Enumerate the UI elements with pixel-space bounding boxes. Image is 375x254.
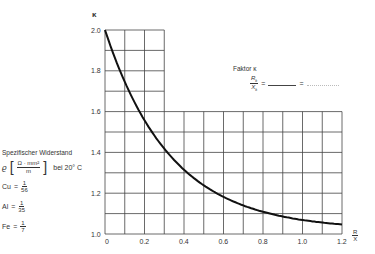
svg-text:1.2: 1.2 [91, 190, 101, 197]
x-axis-label: RX [352, 229, 358, 243]
svg-text:1.0: 1.0 [298, 238, 308, 245]
grid-lines [105, 30, 342, 234]
svg-text:1.2: 1.2 [337, 238, 347, 245]
svg-text:0.4: 0.4 [179, 238, 189, 245]
svg-text:0.8: 0.8 [258, 238, 268, 245]
material-fe: Fe= 17 [2, 220, 26, 234]
ratio-formula: Rk Xk = = [250, 75, 339, 93]
faktor-label: Faktor κ [233, 66, 256, 73]
tick-labels: 00.20.40.60.81.01.21.01.21.41.61.82.0 [91, 27, 347, 246]
svg-text:1.6: 1.6 [91, 108, 101, 115]
svg-text:0.6: 0.6 [219, 238, 229, 245]
resistance-title: Spezifischer Widerstand [2, 150, 72, 157]
svg-text:1.8: 1.8 [91, 67, 101, 74]
chart-canvas: 00.20.40.60.81.01.21.01.21.41.61.82.0 [0, 0, 375, 254]
y-axis-label: κ [92, 11, 96, 19]
svg-text:2.0: 2.0 [91, 27, 101, 34]
blank-line [268, 85, 296, 86]
svg-text:1.0: 1.0 [91, 231, 101, 238]
material-cu: Cu= 156 [2, 180, 28, 194]
resistivity-unit: ϱ [ Ω · mm²m ] bei 20° C [2, 159, 82, 175]
blank-line [307, 85, 339, 86]
svg-text:1.4: 1.4 [91, 149, 101, 156]
svg-text:0: 0 [105, 238, 109, 245]
svg-text:0.2: 0.2 [140, 238, 150, 245]
material-al: Al= 135 [2, 200, 25, 214]
